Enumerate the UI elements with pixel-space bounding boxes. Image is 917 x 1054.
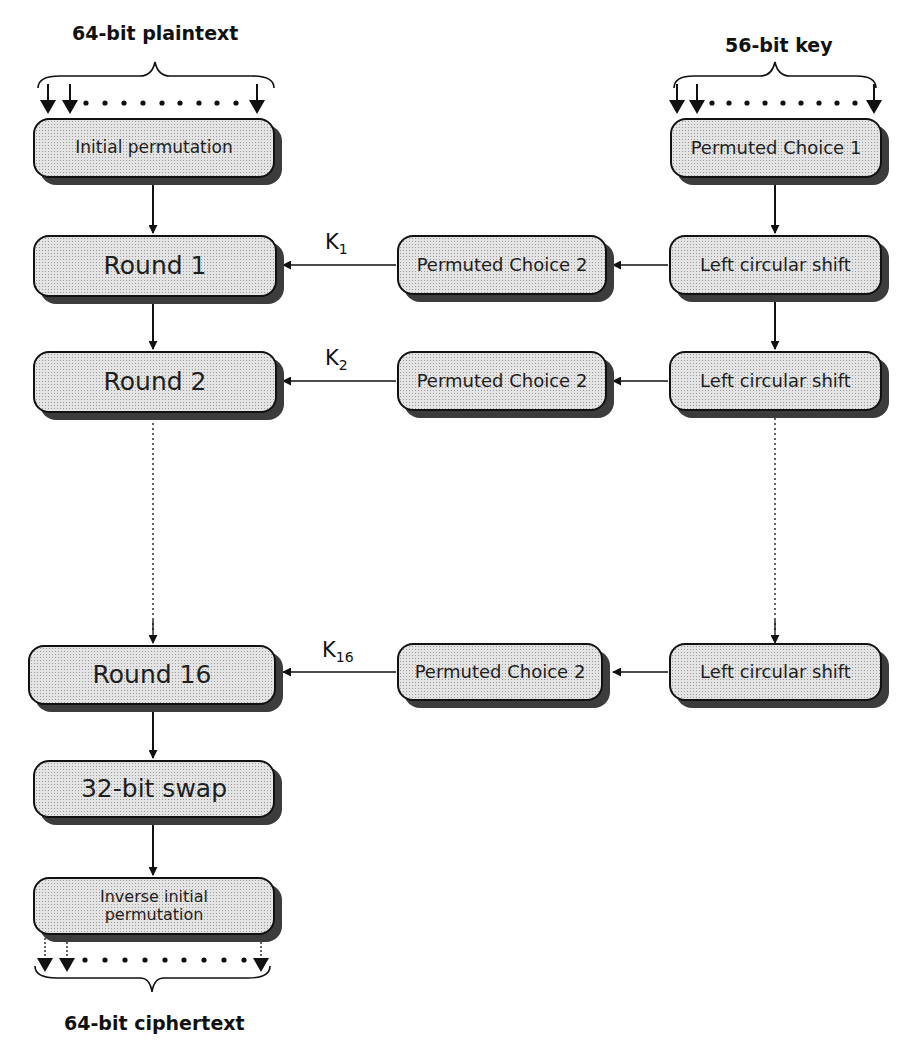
plaintext-input-arrows <box>40 84 265 114</box>
inverse-ip-line-2: permutation <box>105 906 204 924</box>
subkey-k16-label: K16 <box>322 638 354 665</box>
pc2-box-16: Permuted Choice 2 <box>397 643 603 701</box>
shift-box-1: Left circular shift <box>669 235 882 295</box>
ciphertext-output-arrows <box>37 934 269 972</box>
round-2-box: Round 2 <box>33 351 277 413</box>
plaintext-label: 64-bit plaintext <box>72 22 238 44</box>
subkey-k1-label: K1 <box>325 230 348 257</box>
initial-permutation-box: Initial permutation <box>33 118 275 178</box>
pc2-box-1: Permuted Choice 2 <box>397 235 607 295</box>
ciphertext-label: 64-bit ciphertext <box>64 1012 245 1034</box>
subkey-k2-label: K2 <box>325 346 348 373</box>
shift-box-16: Left circular shift <box>669 643 882 701</box>
inverse-ip-line-1: Inverse initial <box>100 888 208 906</box>
pc2-box-2: Permuted Choice 2 <box>397 351 607 411</box>
key-input-arrows <box>669 84 882 114</box>
plaintext-brace <box>38 62 274 88</box>
swap-box: 32-bit swap <box>33 760 275 818</box>
key-label: 56-bit key <box>725 34 833 56</box>
ciphertext-brace <box>35 966 270 992</box>
round-16-box: Round 16 <box>28 645 276 705</box>
round-1-box: Round 1 <box>33 235 277 297</box>
shift-box-2: Left circular shift <box>669 351 882 411</box>
pc1-box: Permuted Choice 1 <box>670 118 882 178</box>
key-brace <box>674 62 876 88</box>
inverse-initial-permutation-box: Inverse initial permutation <box>33 877 275 935</box>
